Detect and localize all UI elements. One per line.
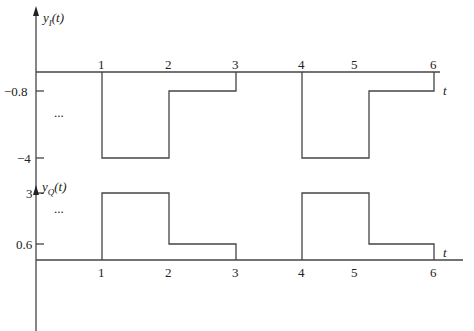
signal-diagram: yI(t) −0.8 −4 ... 1 2 3 4 5 6 t yQ(t) 3 … — [0, 0, 474, 331]
bottom-waveform-1 — [102, 193, 236, 260]
top-x-4: 4 — [298, 58, 305, 71]
bottom-x-2: 2 — [165, 266, 172, 279]
tick-neg-0-8: −0.8 — [4, 85, 28, 98]
top-waveform-1 — [102, 72, 236, 158]
bottom-ylabel: yQ(t) — [42, 180, 67, 197]
bottom-arrow-icon — [33, 185, 39, 195]
top-x-1: 1 — [98, 58, 105, 71]
diagram-lines — [0, 0, 474, 331]
bottom-t-label: t — [443, 246, 447, 259]
bottom-ellipsis: ... — [54, 202, 64, 215]
top-ylabel: yI(t) — [43, 11, 64, 28]
top-x-6: 6 — [430, 58, 437, 71]
top-t-label: t — [443, 84, 447, 97]
top-waveform-2 — [302, 72, 434, 158]
tick-0-6: 0.6 — [16, 238, 32, 251]
bottom-waveform-2 — [302, 193, 434, 260]
top-x-2: 2 — [165, 58, 172, 71]
top-x-3: 3 — [232, 58, 239, 71]
bottom-x-4: 4 — [298, 266, 305, 279]
top-x-5: 5 — [351, 58, 358, 71]
bottom-x-5: 5 — [351, 266, 358, 279]
bottom-x-1: 1 — [98, 266, 105, 279]
tick-neg-4: −4 — [17, 152, 31, 165]
top-arrow-icon — [33, 6, 39, 16]
tick-3: 3 — [26, 187, 33, 200]
bottom-x-6: 6 — [430, 266, 437, 279]
top-ellipsis: ... — [54, 106, 64, 119]
bottom-x-3: 3 — [232, 266, 239, 279]
